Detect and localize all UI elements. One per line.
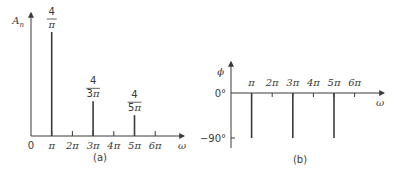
x-tick-label: 4π [106, 140, 120, 151]
y-tick-label: −90° [200, 133, 226, 144]
y-axis-label: An [11, 15, 24, 29]
x-tick-label: 5π [128, 140, 141, 151]
stem-value-label: 43π [86, 75, 100, 99]
fraction-numerator: 4 [90, 75, 96, 86]
x-tick-label: π [47, 140, 55, 151]
stem-value-label: 4π [47, 6, 57, 30]
x-axis-label: ω [376, 97, 384, 108]
phase-spectrum-plot: ϕ ω (b) 0°−90° π2π3π4π5π6π [200, 62, 384, 165]
x-tick-label: 2π [265, 77, 279, 88]
x-axis-label: ω [178, 140, 186, 151]
x-tick-label: 2π [65, 140, 79, 151]
x-tick-label: 0 [28, 140, 34, 151]
y-axis-label: ϕ [217, 66, 224, 77]
caption-a: (a) [93, 152, 107, 163]
fraction-denominator: 3π [87, 88, 100, 99]
stem-value-label: 45π [128, 89, 142, 113]
x-tick-label: 6π [348, 77, 361, 88]
x-tick-label: 3π [286, 77, 299, 88]
x-tick-label: 3π [87, 140, 100, 151]
y-tick-label: 0° [215, 88, 226, 99]
caption-b: (b) [293, 154, 307, 165]
fraction-denominator: π [47, 19, 55, 30]
x-tick-label: π [247, 77, 255, 88]
fraction-numerator: 4 [49, 6, 55, 17]
x-tick-label: 6π [149, 140, 162, 151]
amplitude-spectrum-plot: An ω (a) 0π2π3π4π5π6π 4π43π45π [11, 6, 186, 163]
spectrum-figure: An ω (a) 0π2π3π4π5π6π 4π43π45π ϕ ω (b) 0… [0, 0, 395, 179]
fraction-numerator: 4 [131, 89, 137, 100]
fraction-denominator: 5π [128, 102, 141, 113]
x-tick-label: 5π [328, 77, 341, 88]
x-tick-label: 4π [306, 77, 320, 88]
